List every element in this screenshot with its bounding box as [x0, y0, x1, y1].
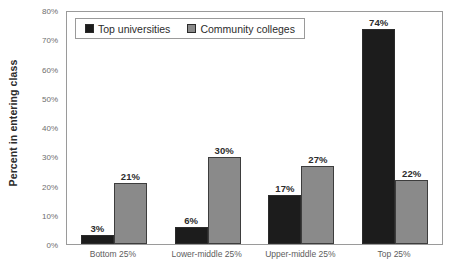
- x-axis-category-label: Bottom 25%: [90, 249, 136, 259]
- bar-chart: Percent in entering class 0%10%20%30%40%…: [0, 0, 454, 271]
- bar-top-universities[interactable]: 6%: [175, 227, 208, 244]
- bar-value-label: 3%: [91, 223, 105, 234]
- bar-value-label: 27%: [308, 154, 327, 165]
- y-axis-tick-label: 0%: [46, 241, 58, 250]
- y-axis-tick-label: 50%: [42, 94, 58, 103]
- y-axis-tick-label: 10%: [42, 211, 58, 220]
- bar-value-label: 22%: [402, 168, 421, 179]
- y-axis-tick-label: 40%: [42, 124, 58, 133]
- bar-top-universities[interactable]: 3%: [81, 235, 114, 244]
- y-axis-tick-label: 20%: [42, 182, 58, 191]
- bar-value-label: 30%: [215, 145, 234, 156]
- legend-label: Top universities: [98, 23, 170, 35]
- legend-item[interactable]: Top universities: [85, 23, 170, 35]
- x-axis-category-label: Upper-middle 25%: [265, 249, 335, 259]
- y-axis-title-text: Percent in entering class: [7, 59, 19, 186]
- bar-community-colleges[interactable]: 22%: [395, 180, 428, 244]
- y-axis-tick-labels: 0%10%20%30%40%50%60%70%80%: [26, 11, 62, 245]
- bar-value-label: 6%: [184, 215, 198, 226]
- bar-community-colleges[interactable]: 30%: [208, 157, 241, 244]
- bar-value-label: 21%: [121, 171, 140, 182]
- bar-community-colleges[interactable]: 27%: [301, 166, 334, 244]
- bar-group: 3%21%: [81, 12, 147, 244]
- bar-value-label: 74%: [369, 17, 388, 28]
- y-axis-title: Percent in entering class: [2, 0, 24, 245]
- bar-top-universities[interactable]: 74%: [362, 29, 395, 244]
- bar-group: 6%30%: [175, 12, 241, 244]
- plot-area: 3%21%6%30%17%27%74%22%: [66, 11, 443, 245]
- bar-community-colleges[interactable]: 21%: [114, 183, 147, 244]
- legend-label: Community colleges: [200, 23, 295, 35]
- bar-group: 74%22%: [362, 12, 428, 244]
- gray-square-swatch: [187, 24, 196, 33]
- bar-value-label: 17%: [275, 183, 294, 194]
- bar-group: 17%27%: [268, 12, 334, 244]
- x-axis-category-label: Top 25%: [378, 249, 411, 259]
- y-axis-tick-label: 80%: [42, 7, 58, 16]
- y-axis-tick-label: 30%: [42, 153, 58, 162]
- black-square-swatch: [85, 24, 94, 33]
- chart-legend: Top universitiesCommunity colleges: [75, 18, 305, 39]
- bars-layer: 3%21%6%30%17%27%74%22%: [67, 12, 442, 244]
- bar-top-universities[interactable]: 17%: [268, 195, 301, 244]
- x-axis-category-labels: Bottom 25%Lower-middle 25%Upper-middle 2…: [66, 249, 443, 267]
- x-axis-category-label: Lower-middle 25%: [171, 249, 241, 259]
- y-axis-tick-label: 60%: [42, 65, 58, 74]
- legend-item[interactable]: Community colleges: [187, 23, 295, 35]
- y-axis-tick-label: 70%: [42, 36, 58, 45]
